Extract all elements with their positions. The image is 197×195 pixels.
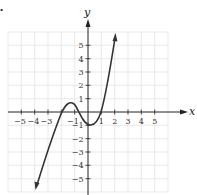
y-tick-label: 5	[78, 41, 83, 50]
x-tick-label: 3	[125, 117, 130, 126]
y-tick-label: 2	[78, 81, 83, 90]
x-axis-label: x	[189, 105, 196, 118]
x-tick-label: 4	[139, 117, 144, 126]
x-tick-label: 5	[152, 117, 157, 126]
x-tick-label: 2	[112, 117, 117, 126]
bullet-marker: •	[0, 5, 3, 15]
x-tick-label: −3	[41, 117, 53, 126]
y-tick-label: 4	[78, 55, 83, 64]
graph: • −5 −4 −	[0, 0, 197, 195]
x-axis-arrow-icon	[180, 110, 188, 115]
y-tick-label: −3	[72, 148, 84, 157]
y-tick-label: −5	[72, 175, 84, 184]
y-tick-label: −2	[72, 135, 84, 144]
curve-arrow-up-icon	[113, 33, 118, 42]
y-axis-arrow-icon	[86, 19, 91, 27]
y-tick-label: 1	[78, 95, 83, 104]
curve-arrow-down-icon	[35, 182, 40, 191]
y-tick-label: −4	[72, 161, 84, 170]
x-tick-label: −4	[28, 117, 40, 126]
y-tick-label: −1	[72, 121, 84, 130]
x-tick-label: −5	[14, 117, 26, 126]
y-axis-label: y	[83, 6, 91, 19]
x-tick-label: 1	[99, 117, 104, 126]
y-tick-label: 3	[78, 68, 83, 77]
